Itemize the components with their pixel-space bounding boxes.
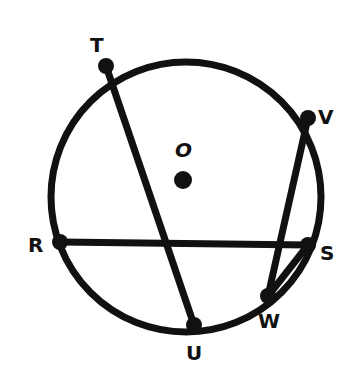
label-t: T [90,33,104,57]
point-t [98,58,114,74]
point-v [300,110,316,126]
label-o: O [175,138,192,162]
chord-rs [60,242,308,245]
center-point-o [174,171,192,189]
label-s: S [320,241,334,265]
point-u [186,317,202,333]
point-w [260,288,276,304]
point-r [52,234,68,250]
label-r: R [28,233,43,257]
label-u: U [186,341,202,365]
point-s [300,237,316,253]
label-w: W [258,309,280,333]
label-v: V [318,105,334,129]
chord-tu [106,66,194,325]
circle-diagram: T V R S W U O [0,0,358,389]
